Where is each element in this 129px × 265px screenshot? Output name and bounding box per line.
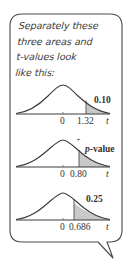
tick-label-critical: 0.686: [69, 222, 91, 232]
plus-marker: +: [77, 136, 81, 144]
tick-label-zero: 0: [60, 169, 65, 179]
axis-label-t: t: [106, 222, 109, 232]
tick-label-critical: 0.80: [70, 169, 87, 179]
area-label: 0.10: [94, 95, 111, 105]
caption-line-2: three areas and: [17, 34, 122, 50]
value-word: -value: [90, 144, 115, 154]
tick-label-zero: 0: [60, 222, 65, 232]
area-label: 0.25: [86, 194, 103, 204]
caption-text: Separately these three areas and t-value…: [15, 18, 123, 81]
tick-label-zero: 0: [60, 116, 65, 126]
area-label: p-value: [84, 144, 115, 154]
caption-line-1: Separately these: [18, 18, 123, 34]
axis-label-t: t: [106, 169, 109, 179]
axis-label-t: t: [106, 116, 109, 126]
caption-line-4: like this:: [15, 65, 120, 81]
caption-line-3: t-values look: [16, 49, 121, 65]
tick-label-critical: 1.32: [77, 116, 94, 126]
